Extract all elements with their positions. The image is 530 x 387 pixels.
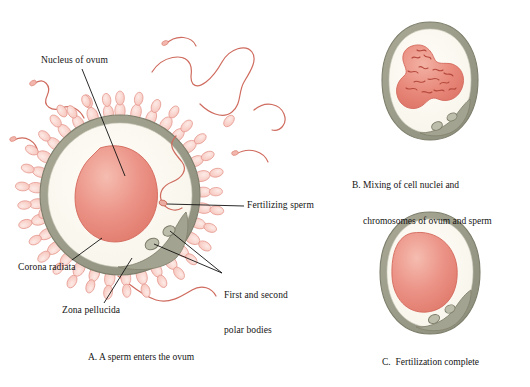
sperm-tail-6: [118, 276, 216, 301]
sperm-head-c: [9, 136, 17, 142]
sperm-head-d: [231, 150, 239, 156]
caption-panel-b-line1: B. Mixing of cell nuclei and: [352, 179, 492, 191]
sperm-tail-2: [152, 48, 254, 115]
figure-canvas: Nucleus of ovum Fertilizing sperm Corona…: [0, 0, 530, 387]
caption-panel-a: A. A sperm enters the ovum: [88, 351, 194, 363]
sperm-tail-4: [254, 104, 285, 130]
panel-b-illustration: [382, 22, 478, 140]
sperm-tail-5: [236, 150, 268, 162]
caption-panel-c: C. Fertilization complete: [382, 356, 479, 368]
caption-panel-b-line2: chromosomes of ovum and sperm: [352, 215, 492, 227]
sperm-tail-3: [166, 37, 196, 46]
label-nucleus-of-ovum: Nucleus of ovum: [41, 55, 108, 67]
label-fertilizing-sperm: Fertilizing sperm: [247, 200, 314, 212]
nucleus-of-ovum-a: [75, 146, 157, 242]
label-corona-radiata: Corona radiata: [18, 262, 76, 274]
label-polar-bodies-line1: First and second: [224, 290, 288, 302]
sperm-head-b: [161, 40, 169, 47]
label-polar-bodies-line2: polar bodies: [224, 325, 288, 337]
label-zona-pellucida: Zona pellucida: [62, 305, 120, 317]
label-polar-bodies: First and second polar bodies: [224, 267, 288, 359]
sperm-head-a: [29, 79, 38, 87]
caption-panel-b: B. Mixing of cell nuclei and chromosomes…: [352, 155, 492, 251]
